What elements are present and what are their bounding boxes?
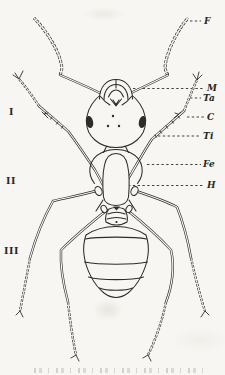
petiole-dot (115, 221, 117, 223)
mesonotum (103, 154, 129, 206)
ant-diagram (0, 0, 225, 375)
numeral-I: I (9, 107, 14, 117)
part-label-Fe: Fe (203, 160, 215, 169)
claw-foreleg-left (13, 71, 23, 79)
figure-canvas: F M Ta C Ti Fe H I II III (0, 0, 225, 375)
claw-hindleg-left (71, 355, 79, 361)
part-label-M: M (207, 84, 217, 93)
part-label-Ta: Ta (203, 94, 215, 103)
head-capsule (87, 91, 146, 148)
mid-coxa-left (94, 185, 104, 196)
part-label-Ti: Ti (203, 132, 214, 141)
claw-hindleg-right (143, 355, 151, 361)
claw-foreleg-right (193, 72, 202, 80)
antenna-right (131, 18, 188, 93)
numeral-II: II (6, 176, 16, 186)
gaster (84, 227, 149, 298)
claw-midleg-left (16, 311, 23, 317)
antenna-left (34, 18, 100, 93)
numeral-III: III (4, 246, 19, 256)
part-label-H: H (207, 181, 216, 190)
claw-midleg-right (201, 311, 209, 317)
mid-coxa-right (130, 185, 140, 196)
part-label-C: C (207, 113, 214, 122)
part-label-F: F (204, 17, 211, 26)
cutoff-caption-fragment (34, 368, 206, 373)
